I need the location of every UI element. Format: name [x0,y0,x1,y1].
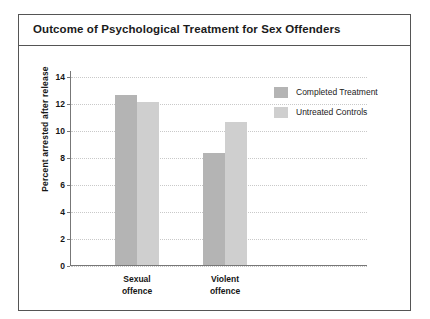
legend-swatch-light-icon [274,107,288,118]
chart-legend: Completed Treatment Untreated Controls [274,84,378,124]
y-tick-label-8: 8 [60,153,65,163]
gridline-0 [71,266,367,267]
x-category-violent-line1: Violent [210,274,240,286]
chart-frame: Outcome of Psychological Treatment for S… [18,14,411,311]
chart-title-band: Outcome of Psychological Treatment for S… [19,15,410,46]
gridline-14 [71,77,367,78]
y-tick-mark-2 [67,239,70,240]
x-category-violent: Violent offence [210,274,240,297]
x-category-sexual: Sexual offence [122,274,152,297]
y-tick-label-4: 4 [60,207,65,217]
legend-item-completed-treatment: Completed Treatment [274,84,378,100]
y-axis-label: Percent arrested after release [40,59,50,199]
legend-label-completed-treatment: Completed Treatment [296,87,378,97]
legend-swatch-dark-icon [274,87,288,98]
x-category-sexual-line2: offence [122,286,152,298]
legend-label-untreated-controls: Untreated Controls [296,107,367,117]
y-tick-mark-4 [67,212,70,213]
y-tick-mark-6 [67,185,70,186]
y-tick-mark-10 [67,131,70,132]
plot-region: Percent arrested after release 0 2 4 [19,46,410,310]
y-tick-label-10: 10 [56,126,65,136]
y-axis-line [70,71,71,266]
y-tick-mark-14 [67,77,70,78]
bar-violent-untreated [225,122,247,265]
y-tick-label-6: 6 [60,180,65,190]
y-tick-label-14: 14 [56,72,65,82]
y-tick-label-2: 2 [60,234,65,244]
bar-sexual-completed [115,95,137,265]
bar-sexual-untreated [137,102,159,265]
y-tick-label-12: 12 [56,99,65,109]
y-tick-mark-0 [67,266,70,267]
x-category-violent-line2: offence [210,286,240,298]
y-tick-label-0: 0 [60,261,65,271]
legend-item-untreated-controls: Untreated Controls [274,104,378,120]
bar-violent-completed [203,153,225,265]
y-tick-mark-12 [67,104,70,105]
x-category-sexual-line1: Sexual [122,274,152,286]
y-tick-mark-8 [67,158,70,159]
chart-title: Outcome of Psychological Treatment for S… [33,23,340,35]
